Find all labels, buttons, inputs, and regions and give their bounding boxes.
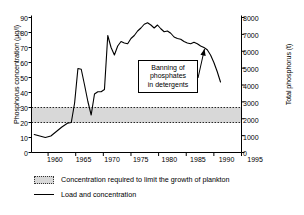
chart-figure: Phosphorus concentration (µg/l) Total ph… [0, 0, 304, 215]
chart-legend: Concentration required to limit the grow… [34, 172, 300, 202]
legend-line-label: Load and concentration [61, 190, 136, 199]
annotation-line-1: Banning of [141, 64, 195, 72]
annotation-line-3: in detergents [141, 81, 195, 89]
annotation-arrow [198, 49, 206, 78]
annotation-banning-of-phosphates: Banning of phosphates in detergents [138, 60, 198, 93]
legend-item-band: Concentration required to limit the grow… [34, 172, 300, 187]
axes [29, 16, 245, 157]
legend-item-line: Load and concentration [34, 187, 300, 202]
legend-band-label: Concentration required to limit the grow… [61, 175, 230, 184]
legend-line-swatch [34, 194, 54, 195]
legend-band-swatch [34, 176, 54, 184]
annotation-line-2: phosphates [141, 72, 195, 80]
plankton-threshold-band [32, 108, 242, 123]
